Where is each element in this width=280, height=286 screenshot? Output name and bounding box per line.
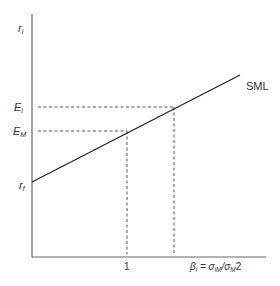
rf-label: rf bbox=[19, 179, 26, 192]
x-axis-label: βi = σiM/σM2 bbox=[189, 261, 242, 273]
em-label: EM bbox=[13, 125, 26, 138]
sml-label: SML bbox=[246, 80, 269, 92]
ei-label: Ei bbox=[14, 101, 23, 114]
x-tick-1: 1 bbox=[124, 261, 130, 272]
y-axis-label: ri bbox=[18, 22, 24, 35]
sml-diagram: ri SML Ei EM rf 1 βi = σiM/σM2 bbox=[0, 0, 280, 286]
sml-line bbox=[32, 75, 240, 182]
